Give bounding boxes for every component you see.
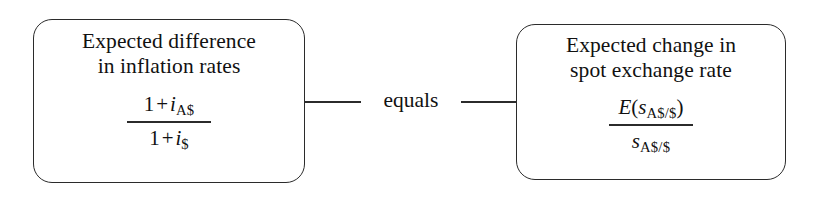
denominator-one: 1 — [149, 126, 160, 150]
node-right-formula: E(sA$/$) sA$/$ — [609, 97, 693, 155]
node-expected-spot-rate-change: Expected change in spot exchange rate E(… — [516, 24, 786, 180]
node-right-title-line-1: Expected change in — [566, 33, 736, 58]
numerator-operator: + — [154, 92, 170, 116]
connector-line-right — [457, 101, 516, 103]
relationship-diagram: Expected difference in inflation rates 1… — [0, 0, 821, 200]
numerator-close-paren: ) — [677, 95, 684, 119]
node-right-title-line-2: spot exchange rate — [570, 58, 732, 83]
node-left-title-line-1: Expected difference — [82, 29, 256, 54]
connector: equals — [305, 101, 516, 103]
numerator-one: 1 — [144, 92, 155, 116]
node-left-formula: 1+iA$ 1+i$ — [127, 94, 211, 152]
node-left-formula-denominator: 1+i$ — [145, 123, 193, 152]
node-right-formula-numerator: E(sA$/$) — [614, 97, 687, 124]
node-left-formula-numerator: 1+iA$ — [140, 94, 199, 121]
numerator-subscript: A$ — [176, 102, 194, 118]
denominator-symbol: s — [632, 129, 640, 153]
connector-label: equals — [361, 86, 461, 114]
node-right-formula-denominator: sA$/$ — [628, 126, 674, 155]
denominator-operator: + — [160, 126, 176, 150]
numerator-function: E — [618, 95, 631, 119]
denominator-subscript: $ — [181, 136, 189, 152]
numerator-subscript: A$/$ — [646, 105, 676, 121]
denominator-subscript: A$/$ — [640, 139, 670, 155]
node-left-title-line-2: in inflation rates — [98, 54, 241, 79]
connector-line-left — [305, 101, 366, 103]
node-expected-inflation-difference: Expected difference in inflation rates 1… — [33, 19, 305, 183]
